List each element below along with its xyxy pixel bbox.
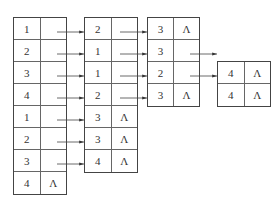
pointer-arrows (0, 0, 280, 206)
